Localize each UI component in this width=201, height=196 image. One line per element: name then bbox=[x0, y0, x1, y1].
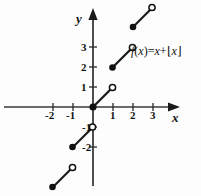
function-annotation-floor-close: ⌋ bbox=[177, 44, 182, 58]
xtick-label-3: 3 bbox=[150, 110, 156, 121]
ytick-label-1: 1 bbox=[81, 82, 87, 93]
function-annotation-close-eq: )= bbox=[144, 44, 155, 58]
segment-branch-neg2-neg1 bbox=[49, 164, 75, 190]
function-annotation-plus: + bbox=[160, 44, 167, 58]
xtick-label-neg2: -2 bbox=[45, 110, 54, 121]
plot-canvas bbox=[0, 0, 201, 196]
ytick-label-neg2: -2 bbox=[82, 142, 91, 153]
ytick-label-3: 3 bbox=[81, 42, 87, 53]
xtick-label-2: 2 bbox=[130, 110, 136, 121]
ytick-label-neg1: -1 bbox=[82, 122, 91, 133]
x-axis-label: x bbox=[172, 111, 179, 124]
xtick-label-1: 1 bbox=[110, 110, 116, 121]
function-annotation: f(x)=x+⌊x⌋ bbox=[131, 45, 182, 57]
segment-branch-2-3 bbox=[130, 4, 155, 30]
xtick-label-neg1: -1 bbox=[66, 110, 75, 121]
y-axis-label: y bbox=[76, 12, 82, 25]
y-axis bbox=[88, 8, 97, 186]
floor-function-figure: -2 -1 1 2 3 3 2 1 -1 -2 y x f(x)=x+⌊x⌋ bbox=[0, 0, 201, 196]
ytick-label-2: 2 bbox=[81, 62, 87, 73]
